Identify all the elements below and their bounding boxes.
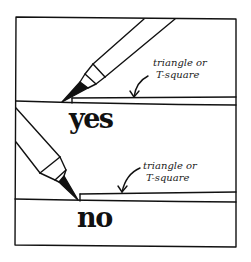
bottom-pen-nib [59,176,78,200]
line-art [0,0,251,262]
annotation-top-line1: triangle or [153,57,207,69]
top-ruler-top-edge [72,97,236,98]
frame-border [15,17,236,247]
bottom-pen-cone [40,157,66,180]
annotation-bottom-line1: triangle or [143,160,197,172]
verdict-no-label: no [77,204,112,231]
annotation-bottom-line2: T-square [146,172,189,184]
bottom-pen-body [16,108,60,173]
bottom-pen-collar [40,157,60,173]
annotation-top-line2: T-square [156,69,199,81]
verdict-yes-label: yes [69,105,113,132]
top-pen-collar [93,64,105,77]
bottom-ruler-top-edge [80,192,236,194]
top-ruler-bottom-edge [16,101,236,105]
bottom-ruler-line [15,199,236,202]
